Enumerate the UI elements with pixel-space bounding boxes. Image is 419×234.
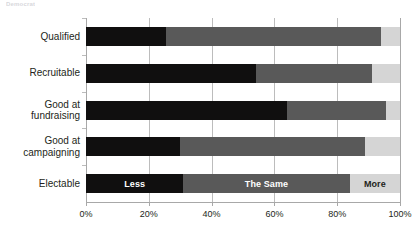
bar-segment-less[interactable]: Less (86, 137, 180, 156)
category-axis: QualifiedRecruitableGood at fundraisingG… (0, 18, 80, 202)
bar-segment-more[interactable]: More (350, 174, 400, 193)
bar-segment-more[interactable]: More (386, 101, 400, 120)
bar-segment-the-same[interactable]: The Same (287, 101, 386, 120)
x-axis-tick (274, 202, 275, 206)
category-axis-tick (82, 55, 86, 56)
x-axis-tick-label: 60% (265, 209, 283, 220)
x-axis-tick (149, 202, 150, 206)
bar-segment-less[interactable]: Less (86, 174, 183, 193)
plot-area: LessThe SameMoreLessThe SameMoreLessThe … (86, 18, 400, 202)
bar-segment-less[interactable]: Less (86, 27, 166, 46)
category-label: Qualified (2, 31, 80, 43)
bar-row[interactable]: LessThe SameMore (86, 101, 400, 120)
gridline (400, 18, 401, 202)
x-axis-tick (337, 202, 338, 206)
x-axis-tick-label: 20% (140, 209, 158, 220)
category-axis-tick (82, 128, 86, 129)
bar-segment-the-same[interactable]: The Same (180, 137, 365, 156)
bar-segment-more[interactable]: More (365, 137, 400, 156)
x-axis-tick-label: 100% (388, 209, 411, 220)
bar-row[interactable]: LessThe SameMore (86, 64, 400, 83)
category-label: Recruitable (2, 67, 80, 79)
x-axis-tick-label: 40% (203, 209, 221, 220)
bar-row[interactable]: LessThe SameMore (86, 27, 400, 46)
category-label: Good at fundraising (2, 99, 80, 122)
x-axis-tick (212, 202, 213, 206)
bar-row[interactable]: LessThe SameMore (86, 174, 400, 193)
category-label: Good at campaigning (2, 135, 80, 158)
bar-segment-less[interactable]: Less (86, 101, 287, 120)
x-axis-tick (400, 202, 401, 206)
x-axis-tick (86, 202, 87, 206)
x-axis-tick-label: 0% (79, 209, 92, 220)
x-axis-baseline (86, 202, 401, 203)
top-caption: Democrat (6, 0, 35, 8)
category-label: Electable (2, 178, 80, 190)
category-axis-tick (82, 18, 86, 19)
inline-legend-label: The Same (245, 179, 288, 189)
bar-segment-the-same[interactable]: The Same (166, 27, 381, 46)
category-axis-tick (82, 165, 86, 166)
bar-segment-more[interactable]: More (372, 64, 400, 83)
bar-segment-the-same[interactable]: The Same (183, 174, 349, 193)
bar-segment-the-same[interactable]: The Same (256, 64, 372, 83)
inline-legend-label: More (364, 179, 386, 189)
bar-segment-less[interactable]: Less (86, 64, 256, 83)
inline-legend-label: Less (124, 179, 145, 189)
category-axis-tick (82, 92, 86, 93)
stacked-bar-chart: Democrat QualifiedRecruitableGood at fun… (0, 0, 419, 234)
x-axis-tick-label: 80% (328, 209, 346, 220)
bar-row[interactable]: LessThe SameMore (86, 137, 400, 156)
bar-segment-more[interactable]: More (381, 27, 400, 46)
